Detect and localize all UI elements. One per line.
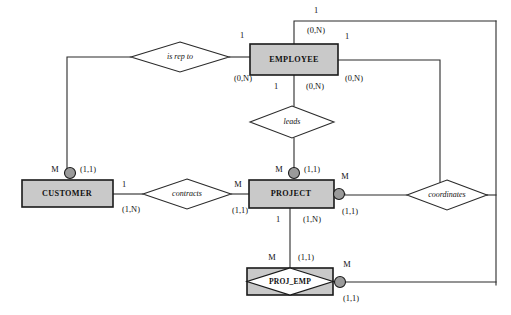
cardinality-label-contracts-proj-m: M [234, 180, 242, 189]
entity-project[interactable]: PROJECT [249, 180, 334, 208]
entity-label-customer: CUSTOMER [42, 189, 92, 198]
cardinality-label-isrepto-emp-one: 1 [240, 31, 244, 40]
cardinality-label-projemp-right-part: (1,1) [343, 294, 359, 303]
connection-dot-customer-top [65, 168, 76, 179]
cardinality-label-emp-right-part: (0,N) [345, 74, 363, 83]
entity-employee[interactable]: EMPLOYEE [250, 44, 338, 75]
relationship-label-coordinates: coordinates [428, 190, 465, 199]
entity-proj-emp[interactable]: PROJ_EMP [247, 268, 333, 295]
cardinality-label-cust-top-part: (1,1) [80, 165, 96, 174]
cardinality-label-projemp-top-part: (1,1) [298, 253, 314, 262]
er-diagram-canvas: is rep to leads contracts coordinates EM… [0, 0, 511, 315]
relationship-coordinates[interactable]: coordinates [407, 180, 487, 210]
relationship-leads[interactable]: leads [250, 106, 334, 138]
relationship-label-leads: leads [284, 117, 301, 126]
cardinality-label-contracts-proj-part: (1,1) [232, 206, 248, 215]
entity-customer[interactable]: CUSTOMER [22, 180, 113, 207]
cardinality-label-proj-right-part: (1,1) [342, 207, 358, 216]
cardinality-label-isrepto-emp-part: (0,N) [234, 74, 252, 83]
connection-dot-projemp-right [335, 277, 346, 288]
entity-label-employee: EMPLOYEE [269, 55, 319, 64]
entity-label-project: PROJECT [271, 189, 312, 198]
cardinality-label-leads-emp-part: (0,N) [306, 82, 324, 91]
cardinality-label-proj-bottom-part: (1,N) [303, 215, 321, 224]
relationship-is-rep-to[interactable]: is rep to [131, 42, 229, 72]
connection-dot-project-right [334, 189, 345, 200]
cardinality-label-emp-right-one: 1 [345, 32, 349, 41]
entity-label-proj-emp: PROJ_EMP [269, 277, 311, 286]
cardinality-label-projemp-right-m: M [343, 260, 351, 269]
relationship-label-is-rep-to: is rep to [167, 52, 193, 61]
cardinality-label-cust-top-m: M [51, 165, 59, 174]
cardinality-label-leads-emp-one: 1 [274, 82, 278, 91]
cardinality-label-emp-top-one: 1 [314, 6, 318, 15]
cardinality-label-proj-top-part: (1,1) [304, 165, 320, 174]
cardinality-label-proj-right-m: M [341, 172, 349, 181]
relationship-contracts[interactable]: contracts [143, 179, 231, 209]
cardinality-label-cust-right-part: (1,N) [122, 205, 140, 214]
cardinality-label-proj-bottom-one: 1 [276, 215, 280, 224]
cardinality-label-proj-top-m: M [275, 165, 283, 174]
cardinality-label-cust-right-one: 1 [122, 180, 126, 189]
relationship-label-contracts: contracts [172, 189, 202, 198]
connection-dot-project-top [289, 168, 300, 179]
line-isrepto-to-customer [67, 57, 131, 170]
cardinality-label-projemp-top-m: M [268, 253, 276, 262]
cardinality-label-emp-top-part: (0,N) [307, 26, 325, 35]
